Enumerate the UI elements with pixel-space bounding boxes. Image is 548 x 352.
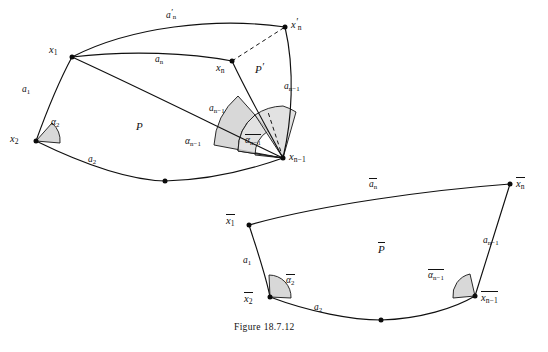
vertex-dot-xmid <box>163 179 168 184</box>
label-vertex-xn-1-bar: xn−1 <box>481 291 498 304</box>
vertex-dot-xn-1 <box>281 156 286 161</box>
vertex-dot-x2 <box>34 139 39 144</box>
label-vertex-x2-bar: x2 <box>244 292 253 305</box>
label-edge-an: an <box>155 55 163 66</box>
label-edge-an-1-right: an−1 <box>284 82 300 93</box>
edge-a-n-bar <box>249 184 510 225</box>
label-region-P: P <box>136 121 143 132</box>
label-edge-a2: a2 <box>88 155 96 166</box>
figure-canvas: x1 x2 xn−1 xn x′n a1 a2 an a′n an−1 an−1… <box>0 0 548 352</box>
angle-sector-alpha-n-1-bar-lower <box>453 274 475 298</box>
label-region-P-prime: P′ <box>255 62 264 75</box>
label-angle-alpha2: α2 <box>51 118 60 129</box>
label-angle-alpha-n-1-bar-lower: αn−1 <box>428 269 444 281</box>
edge-a-2-bar <box>270 296 475 320</box>
label-vertex-x1-bar: x1 <box>226 214 235 227</box>
label-vertex-x1: x1 <box>49 45 58 57</box>
label-vertex-xn-1: xn−1 <box>289 152 306 164</box>
label-angle-alpha-n-1: αn−1 <box>185 137 201 148</box>
figure-vector-graphic <box>0 0 548 352</box>
label-region-P-bar: P <box>378 242 385 255</box>
vertex-dot-xn-bar <box>508 182 513 187</box>
edge-a-n-prime <box>72 23 285 57</box>
figure-caption: Figure 18.7.12 <box>234 322 295 332</box>
vertex-dot-xn <box>230 59 235 64</box>
label-edge-a2-bar: a2 <box>314 303 322 314</box>
label-edge-an-1-bar: an−1 <box>483 236 499 247</box>
vertex-dot-xn-1-bar <box>473 294 478 299</box>
upper-diagram-group <box>34 23 297 183</box>
vertex-dot-xn-prime <box>283 25 288 30</box>
vertex-dot-x1 <box>70 55 75 60</box>
edge-a-n <box>72 53 232 61</box>
label-angle-alpha-n-1-bar: αn−1 <box>245 134 261 146</box>
label-edge-an-bar: an <box>369 178 377 190</box>
dashed-segment-xn-to-xn-prime <box>232 27 285 61</box>
label-edge-a1: a1 <box>22 85 30 96</box>
label-vertex-x2: x2 <box>10 134 19 146</box>
label-angle-alpha2-bar: α2 <box>286 274 295 286</box>
label-vertex-xn-bar: xn <box>516 177 525 190</box>
label-vertex-xn: xn <box>216 63 225 75</box>
label-edge-a1-bar: a1 <box>243 256 251 267</box>
vertex-dot-x1-bar <box>247 223 252 228</box>
vertex-dot-x2-bar <box>268 295 273 300</box>
label-edge-an-prime: a′n <box>166 8 176 21</box>
label-vertex-xn-prime: x′n <box>291 17 302 31</box>
vertex-dot-xmid-bar <box>379 318 384 323</box>
label-edge-an-1-left: an−1 <box>209 104 225 115</box>
edge-a-1-bar <box>249 225 270 297</box>
